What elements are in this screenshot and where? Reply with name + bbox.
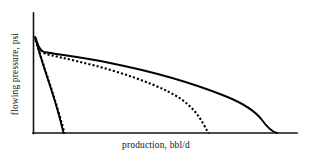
y-axis-label: flowing pressure, psi: [10, 33, 20, 116]
chart-figure: production, bbl/d flowing pressure, psi: [0, 0, 309, 157]
x-axis-label: production, bbl/d: [122, 140, 190, 150]
